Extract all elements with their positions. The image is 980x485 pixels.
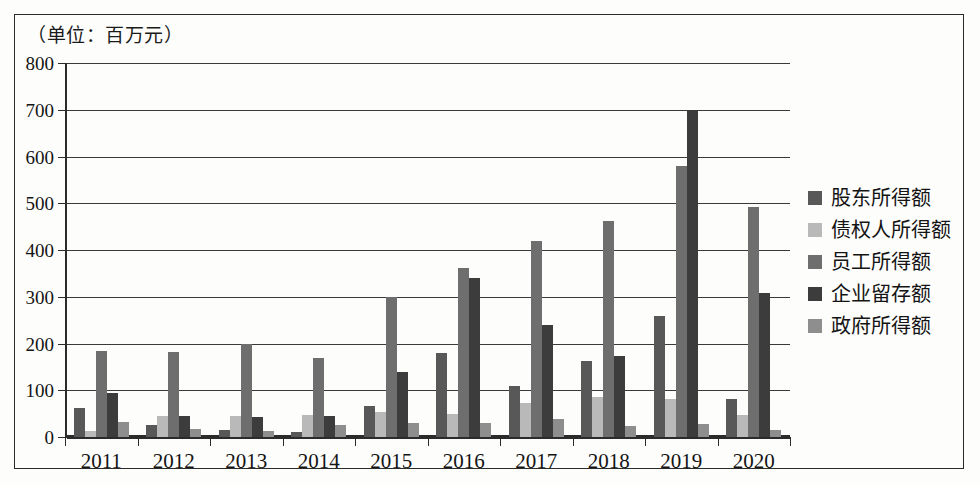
y-tick-label-600: 600 xyxy=(26,147,55,166)
gridline-400 xyxy=(67,250,790,251)
x-tick-mark-5 xyxy=(428,437,429,446)
gridline-700 xyxy=(67,110,790,111)
plot-area xyxy=(65,63,790,437)
x-tick-mark-2 xyxy=(210,437,211,446)
y-tick-mark-700 xyxy=(58,110,67,111)
x-tick-mark-1 xyxy=(138,437,139,446)
x-tick-label-2012: 2012 xyxy=(153,451,195,472)
chart-figure: （单位：百万元） 0100200300400500600700800 20112… xyxy=(0,0,980,485)
legend-item-2: 员工所得额 xyxy=(808,246,958,278)
x-tick-mark-4 xyxy=(355,437,356,446)
legend-label-4: 政府所得额 xyxy=(831,316,931,336)
legend-swatch-icon-0 xyxy=(808,191,822,205)
y-tick-label-300: 300 xyxy=(26,287,55,306)
gridline-200 xyxy=(67,344,790,345)
x-tick-mark-9 xyxy=(718,437,719,446)
x-tick-label-2019: 2019 xyxy=(660,451,702,472)
y-tick-label-500: 500 xyxy=(26,194,55,213)
chart-title: （单位：百万元） xyxy=(27,20,183,47)
gridline-300 xyxy=(67,297,790,298)
x-tick-label-2020: 2020 xyxy=(733,451,775,472)
y-tick-mark-200 xyxy=(58,344,67,345)
x-tick-mark-0 xyxy=(65,437,66,446)
x-tick-label-2015: 2015 xyxy=(370,451,412,472)
x-tick-mark-3 xyxy=(283,437,284,446)
x-tick-mark-7 xyxy=(573,437,574,446)
legend-label-3: 企业留存额 xyxy=(831,284,931,304)
legend-swatch-icon-1 xyxy=(808,223,822,237)
gridline-600 xyxy=(67,157,790,158)
x-tick-label-2018: 2018 xyxy=(588,451,630,472)
x-tick-label-2016: 2016 xyxy=(443,451,485,472)
legend-item-1: 债权人所得额 xyxy=(808,214,958,246)
y-tick-mark-400 xyxy=(58,250,67,251)
x-tick-mark-6 xyxy=(500,437,501,446)
legend-label-1: 债权人所得额 xyxy=(831,220,951,240)
legend-swatch-icon-3 xyxy=(808,287,822,301)
x-tick-label-2017: 2017 xyxy=(515,451,557,472)
y-tick-mark-300 xyxy=(58,297,67,298)
x-tick-label-2013: 2013 xyxy=(225,451,267,472)
gridline-100 xyxy=(67,390,790,391)
x-tick-mark-10 xyxy=(790,437,791,446)
x-tick-label-2011: 2011 xyxy=(81,451,122,472)
legend-swatch-icon-4 xyxy=(808,319,822,333)
y-tick-mark-600 xyxy=(58,157,67,158)
legend-item-0: 股东所得额 xyxy=(808,182,958,214)
y-tick-label-400: 400 xyxy=(26,241,55,260)
gridline-800 xyxy=(67,63,790,64)
x-axis: 2011201220132014201520162017201820192020 xyxy=(65,437,790,485)
legend-swatch-icon-2 xyxy=(808,255,822,269)
x-tick-mark-8 xyxy=(645,437,646,446)
legend-label-2: 员工所得额 xyxy=(831,252,931,272)
x-tick-label-2014: 2014 xyxy=(298,451,340,472)
y-tick-mark-500 xyxy=(58,203,67,204)
y-tick-label-100: 100 xyxy=(26,381,55,400)
y-tick-mark-800 xyxy=(58,63,67,64)
y-tick-label-0: 0 xyxy=(45,428,55,447)
legend-label-0: 股东所得额 xyxy=(831,188,931,208)
y-tick-label-200: 200 xyxy=(26,334,55,353)
legend-item-3: 企业留存额 xyxy=(808,278,958,310)
y-axis-labels: 0100200300400500600700800 xyxy=(0,63,54,437)
chart-legend: 股东所得额债权人所得额员工所得额企业留存额政府所得额 xyxy=(808,182,958,342)
legend-item-4: 政府所得额 xyxy=(808,310,958,342)
gridline-500 xyxy=(67,203,790,204)
y-tick-mark-100 xyxy=(58,390,67,391)
y-tick-label-800: 800 xyxy=(26,54,55,73)
y-tick-label-700: 700 xyxy=(26,100,55,119)
